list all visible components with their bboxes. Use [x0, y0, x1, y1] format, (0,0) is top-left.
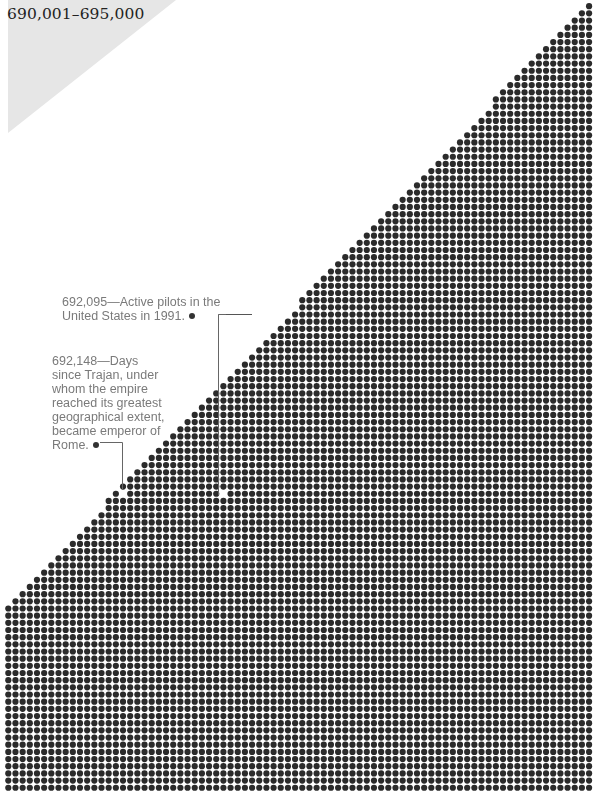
- annotation-trajan-line: whom the empire: [52, 382, 182, 396]
- annotation-trajan-line: reached its greatest: [52, 396, 182, 410]
- annotation-trajan-line: geographical extent,: [52, 410, 182, 424]
- annotation-trajan-line: became emperor of: [52, 424, 182, 438]
- annotation-pilots-line1: 692,095—Active pilots in the: [62, 295, 282, 309]
- annotation-trajan: 692,148—Days since Trajan, under whom th…: [52, 354, 182, 452]
- annotation-trajan-line: 692,148—Days: [52, 354, 182, 368]
- annotation-trajan-line: since Trajan, under: [52, 368, 182, 382]
- leader-line-pilots: [226, 314, 252, 315]
- bullet-icon: [93, 442, 99, 448]
- bullet-icon: [189, 313, 195, 319]
- annotation-pilots: 692,095—Active pilots in the United Stat…: [62, 295, 282, 323]
- annotation-trajan-line: Rome.: [52, 438, 89, 452]
- annotation-pilots-line2: United States in 1991.: [62, 309, 185, 323]
